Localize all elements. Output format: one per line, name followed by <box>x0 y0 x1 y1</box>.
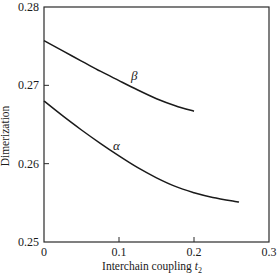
series-label-beta: β <box>130 68 138 83</box>
x-tick-label: 0.2 <box>187 245 202 259</box>
data-series <box>44 41 239 202</box>
y-tick-label: 0.25 <box>18 235 39 249</box>
chart: 00.10.20.30.250.260.270.28 Dimerization … <box>0 0 278 276</box>
x-tick-label: 0.3 <box>262 245 277 259</box>
x-axis-label: Interchain coupling t2 <box>102 260 202 275</box>
curve-alpha <box>44 101 239 202</box>
y-tick-label: 0.27 <box>18 78 39 92</box>
plot-frame <box>44 7 269 242</box>
y-tick-label: 0.28 <box>18 0 39 14</box>
axis-ticks: 00.10.20.30.250.260.270.28 <box>18 0 277 259</box>
y-axis-label: Dimerization <box>0 105 11 166</box>
x-tick-label: 0 <box>41 245 47 259</box>
x-tick-label: 0.1 <box>112 245 127 259</box>
series-label-alpha: α <box>113 138 121 153</box>
plot-border <box>44 7 269 242</box>
y-tick-label: 0.26 <box>18 157 39 171</box>
curve-beta <box>44 41 194 112</box>
